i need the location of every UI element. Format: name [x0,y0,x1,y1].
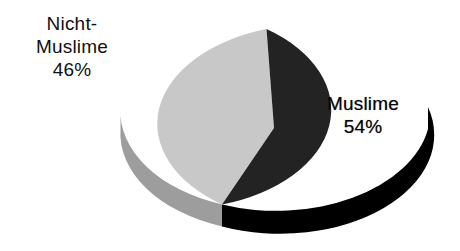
slice-label-muslime-percent: 54% [300,115,426,138]
slice-label-muslime: Muslime 54% [300,92,426,138]
slice-label-nicht-muslime-percent: 46% [8,58,136,81]
pie-chart-figure: Nicht- Muslime 46% Muslime 54% [0,0,460,251]
slice-label-nicht-muslime-line1: Nicht- [8,12,136,35]
slice-label-muslime-line1: Muslime [300,92,426,115]
slice-label-nicht-muslime-line2: Muslime [8,35,136,58]
slice-label-nicht-muslime: Nicht- Muslime 46% [8,12,136,81]
